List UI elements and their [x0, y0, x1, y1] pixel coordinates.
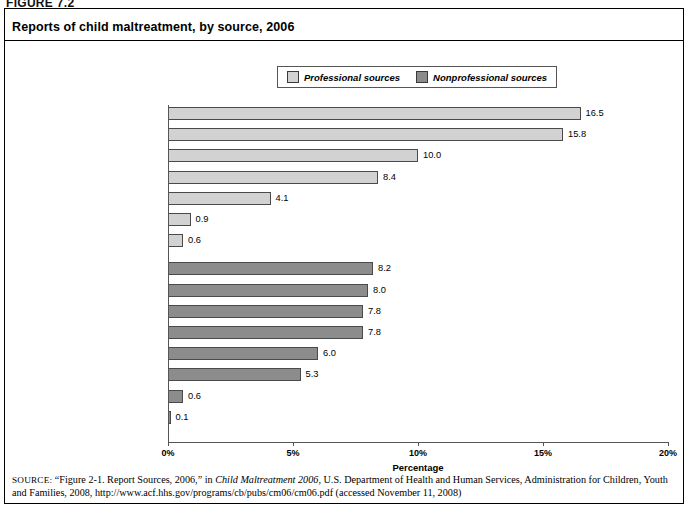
bar-value-label: 4.1	[276, 193, 289, 203]
bar[interactable]	[168, 171, 378, 184]
bar[interactable]	[168, 234, 183, 247]
x-tick-label-1: 5%	[286, 448, 299, 458]
x-tick-label-3: 15%	[534, 448, 552, 458]
bar[interactable]	[168, 262, 373, 275]
bar-value-label: 7.8	[368, 306, 381, 316]
source-text-before: “Figure 2-1. Report Sources, 2006,” in	[52, 474, 215, 485]
bar[interactable]	[168, 368, 301, 381]
chart-row: Alleged victim(s)0.6	[168, 390, 668, 403]
x-axis-title: Percentage	[392, 462, 443, 473]
bar-value-label: 0.1	[176, 412, 189, 422]
source-note: SOURCE: “Figure 2-1. Report Sources, 200…	[12, 474, 676, 499]
bar-value-label: 10.0	[423, 150, 441, 160]
legend-swatch-nonprofessional-icon	[416, 71, 428, 83]
legend-label-professional: Professional sources	[304, 72, 400, 83]
chart-row: Foster care providers0.6	[168, 234, 668, 247]
legend-item-nonprofessional[interactable]: Nonprofessional sources	[416, 71, 547, 83]
x-tick-1	[293, 442, 294, 446]
bar-value-label: 5.3	[306, 369, 319, 379]
y-axis-line	[168, 105, 169, 442]
x-tick-label-4: 20%	[659, 448, 677, 458]
bar[interactable]	[168, 107, 581, 120]
legend-item-professional[interactable]: Professional sources	[287, 71, 400, 83]
bar-value-label: 8.2	[378, 263, 391, 273]
chart-row: Legal, law enforcement, criminal justice…	[168, 128, 668, 141]
legend-label-nonprofessional: Nonprofessional sources	[433, 72, 547, 83]
chart-row: Educational personnel16.5	[168, 107, 668, 120]
bar-value-label: 16.5	[586, 108, 604, 118]
chart-row: Social services personnel10.0	[168, 149, 668, 162]
chart-row: Friend(s) or neighbor(s)5.3	[168, 368, 668, 381]
bar-value-label: 6.0	[323, 348, 336, 358]
x-tick-4	[668, 442, 669, 446]
chart-title: Reports of child maltreatment, by source…	[12, 20, 294, 34]
bar-value-label: 0.6	[188, 235, 201, 245]
source-publication-title: Child Maltreatment 2006	[215, 474, 318, 485]
chart-row: Mental health personnel4.1	[168, 192, 668, 205]
bar[interactable]	[168, 149, 418, 162]
x-tick-0	[168, 442, 169, 446]
chart-row: Parent(s)6.0	[168, 347, 668, 360]
bar[interactable]	[168, 128, 563, 141]
x-tick-3	[543, 442, 544, 446]
bar[interactable]	[168, 284, 368, 297]
bar[interactable]	[168, 326, 363, 339]
chart-row: Other relative(s)7.8	[168, 305, 668, 318]
plot-area: Educational personnel16.5Legal, law enfo…	[168, 105, 668, 442]
bar-value-label: 7.8	[368, 327, 381, 337]
legend-swatch-professional-icon	[287, 71, 299, 83]
bar-value-label: 8.4	[383, 172, 396, 182]
bar[interactable]	[168, 192, 271, 205]
chart-row: Alleged perpetrator(s)0.1	[168, 411, 668, 424]
title-divider	[5, 40, 683, 41]
bar[interactable]	[168, 347, 318, 360]
chart-row: Child daycare provider(s)0.9	[168, 213, 668, 226]
chart-legend: Professional sources Nonprofessional sou…	[277, 66, 557, 88]
bar-value-label: 0.6	[188, 391, 201, 401]
chart-row: Other8.0	[168, 284, 668, 297]
bar-value-label: 8.0	[373, 285, 386, 295]
x-tick-label-0: 0%	[161, 448, 174, 458]
bar[interactable]	[168, 305, 363, 318]
chart-row: Unknown or missing7.8	[168, 326, 668, 339]
source-keyword: SOURCE:	[12, 475, 52, 485]
bar-value-label: 0.9	[196, 214, 209, 224]
bar-value-label: 15.8	[568, 129, 586, 139]
bar[interactable]	[168, 213, 191, 226]
x-tick-label-2: 10%	[409, 448, 427, 458]
x-tick-2	[418, 442, 419, 446]
bar[interactable]	[168, 390, 183, 403]
chart-row: Anonymous source(s)8.2	[168, 262, 668, 275]
chart-row: Medical personnel8.4	[168, 171, 668, 184]
